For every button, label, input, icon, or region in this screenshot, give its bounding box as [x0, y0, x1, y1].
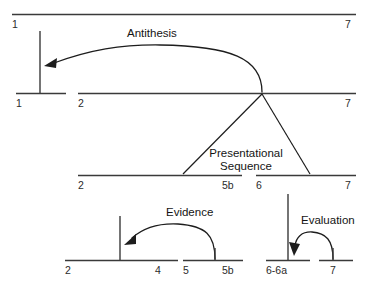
evaluation-label: Evaluation [301, 214, 355, 226]
label-row3-a: 5b [222, 179, 234, 191]
antithesis-arrow-curve [54, 45, 262, 92]
evaluation-arrow-curve [295, 232, 333, 259]
label-row4-e: 6-6a [266, 264, 287, 276]
rst-diagram-container: 1 7 Antithesis 1 2 7 Presentational Sequ [0, 0, 369, 296]
label-row4-d: 5b [222, 264, 234, 276]
evidence-label: Evidence [166, 206, 213, 218]
label-row2-mid: 2 [78, 97, 84, 109]
label-row3-left: 2 [78, 179, 84, 191]
evaluation-arrow-head [289, 242, 300, 256]
level-3-group: 2 5b 6 7 [78, 176, 356, 192]
antithesis-relation-group: Antithesis [44, 27, 262, 92]
presentational-sequence-label-line2: Sequence [220, 160, 272, 172]
label-top-left: 1 [12, 18, 18, 30]
evaluation-relation-group: Evaluation [289, 214, 355, 259]
label-row4-c: 5 [183, 264, 189, 276]
label-row4-a: 2 [65, 264, 71, 276]
presentational-sequence-label-line1: Presentational [209, 147, 283, 159]
antithesis-label: Antithesis [127, 27, 177, 39]
label-row3-b: 6 [256, 179, 262, 191]
label-row4-b: 4 [155, 264, 161, 276]
level-1-root-group: 1 7 [12, 15, 356, 31]
evidence-arrow-curve [132, 224, 215, 259]
label-row2-right: 7 [345, 97, 351, 109]
label-row2-left: 1 [16, 97, 22, 109]
presentational-sequence-group: Presentational Sequence [183, 94, 310, 174]
antithesis-arrow-head [44, 58, 57, 68]
label-row3-right: 7 [345, 179, 351, 191]
label-row4-f: 7 [330, 264, 336, 276]
evidence-relation-group: Evidence [124, 206, 215, 259]
level-2-group: 1 2 7 [16, 31, 356, 109]
rhetorical-structure-diagram: 1 7 Antithesis 1 2 7 Presentational Sequ [0, 0, 369, 296]
label-top-right: 7 [345, 18, 351, 30]
